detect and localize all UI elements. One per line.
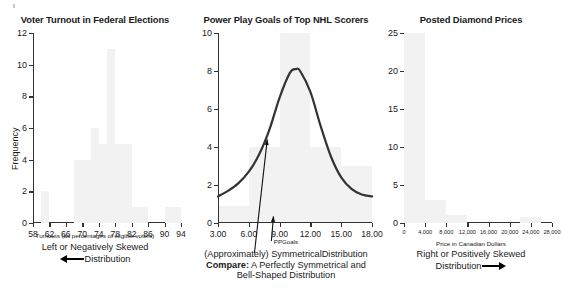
histogram-bar: [91, 128, 99, 223]
x-axis-tick-label: 20,000: [501, 229, 518, 235]
y-axis-tick-label: 20: [388, 66, 398, 76]
histogram-bar: [446, 215, 467, 223]
y-axis-tick: [400, 147, 404, 148]
x-axis-tick: [310, 223, 311, 227]
x-axis-tick: [218, 223, 219, 227]
caption-distribution-row: Distribution: [380, 261, 562, 271]
x-axis-tick: [552, 223, 553, 227]
y-axis-tick-label: 15: [388, 104, 398, 114]
x-axis-tick: [404, 223, 405, 227]
x-axis-tick: [467, 223, 468, 227]
x-axis-tick: [66, 223, 67, 227]
x-axis-tick-label: 12,000: [459, 229, 476, 235]
y-axis-tick: [214, 185, 218, 186]
x-axis-tick: [132, 223, 133, 227]
y-axis-tick-label: 0: [207, 218, 212, 228]
y-axis-tick: [400, 109, 404, 110]
figure-sheet: Voter Turnout in Federal Elections Frequ…: [0, 0, 562, 293]
x-axis-tick: [115, 223, 116, 227]
x-axis-tick: [165, 223, 166, 227]
y-axis-tick-label: 4: [22, 155, 27, 165]
y-axis-tick-label: 0: [22, 218, 27, 228]
x-axis-tick: [531, 223, 532, 227]
left-arrow-icon: [60, 255, 84, 264]
y-axis-tick-label: 25: [388, 28, 398, 38]
x-axis-tick: [49, 223, 50, 227]
x-axis-tick-label: 8,000: [439, 229, 453, 235]
y-axis-tick-label: 12: [17, 28, 27, 38]
right-arrow-icon: [482, 262, 506, 271]
histogram-bar: [74, 160, 82, 223]
y-axis-title-frequency: Frequency: [10, 127, 20, 170]
chart-panel-power-play-goals: Power Play Goals of Top NHL Scorers 0246…: [188, 0, 384, 293]
plot-area-voter-turnout: 024681012 58626670747882869094: [33, 33, 181, 223]
histogram-bar: [107, 49, 115, 223]
x-axis-tick: [280, 223, 281, 227]
x-axis-tick-label: 28,000: [543, 229, 560, 235]
histogram-bar: [99, 144, 107, 223]
chart-panel-diamond-prices: Posted Diamond Prices 0510152025 04,0008…: [380, 0, 562, 293]
y-axis-tick-label: 10: [388, 142, 398, 152]
histogram-bar: [404, 33, 425, 223]
x-axis-title-turnouts: Turnouts (as percentages of eligible vot…: [0, 232, 190, 239]
caption-distribution-label: Distribution: [85, 254, 131, 264]
y-axis-tick-label: 4: [207, 142, 212, 152]
y-axis-tick: [214, 71, 218, 72]
y-axis-tick: [400, 33, 404, 34]
caption-symmetrical: (Approximately) SymmetricalDistribution: [188, 249, 384, 260]
plot-area-diamond-prices: 0510152025 04,0008,00012,00016,00020,000…: [404, 33, 552, 223]
y-axis-line: [33, 33, 34, 223]
page-title-power-play-goals: Power Play Goals of Top NHL Scorers: [188, 14, 384, 25]
chart-panel-voter-turnout: Voter Turnout in Federal Elections Frequ…: [0, 0, 190, 293]
y-axis-tick: [29, 191, 33, 192]
histogram-bar: [165, 207, 181, 223]
x-axis-tick: [341, 223, 342, 227]
y-axis-tick-label: 10: [17, 60, 27, 70]
x-axis-tick: [249, 223, 250, 227]
x-axis-tick: [181, 223, 182, 227]
y-axis-tick-label: 0: [393, 218, 398, 228]
x-axis-tick: [33, 223, 34, 227]
y-axis-tick: [29, 128, 33, 129]
histogram-bar: [123, 144, 131, 223]
y-axis-tick: [214, 33, 218, 34]
y-axis-tick-label: 2: [207, 180, 212, 190]
page-title-voter-turnout: Voter Turnout in Federal Elections: [0, 14, 190, 25]
x-axis-tick: [148, 223, 149, 227]
y-axis-tick-label: 6: [22, 123, 27, 133]
x-axis-tick: [99, 223, 100, 227]
histogram-bar: [82, 160, 90, 223]
x-axis-title-ppgoals: PPGoals: [188, 238, 384, 245]
y-axis-tick: [29, 33, 33, 34]
page-title-diamond-prices: Posted Diamond Prices: [380, 14, 562, 25]
y-axis-tick-label: 2: [22, 186, 27, 196]
x-axis-tick: [510, 223, 511, 227]
caption-compare-label: Compare:: [206, 260, 249, 270]
y-axis-tick: [29, 96, 33, 97]
y-axis-tick: [214, 147, 218, 148]
y-axis-tick-label: 8: [22, 91, 27, 101]
x-axis-tick: [425, 223, 426, 227]
histogram-bar: [41, 191, 49, 223]
y-axis-tick: [400, 185, 404, 186]
x-axis-tick-label: 0: [402, 229, 405, 235]
x-axis-tick-label: 4,000: [418, 229, 432, 235]
y-axis-tick: [400, 71, 404, 72]
y-axis-tick: [214, 109, 218, 110]
histogram-bar: [425, 200, 446, 223]
x-axis-tick: [446, 223, 447, 227]
y-axis-tick-label: 8: [207, 66, 212, 76]
y-axis-tick-label: 10: [202, 28, 212, 38]
y-axis-tick: [29, 65, 33, 66]
histogram-bar: [132, 207, 148, 223]
x-axis-tick: [372, 223, 373, 227]
caption-distribution-row: Distribution: [0, 254, 190, 264]
caption-distribution-label: Distribution: [436, 261, 482, 271]
caption-compare-text: A Perfectly Symmetrical and: [249, 260, 366, 270]
caption-bell-shaped: Bell-Shaped Distribution: [188, 270, 384, 281]
x-axis-tick-label: 16,000: [480, 229, 497, 235]
x-axis-tick-label: 24,000: [522, 229, 539, 235]
x-axis-tick: [489, 223, 490, 227]
x-axis-tick: [82, 223, 83, 227]
histogram-bar: [115, 144, 123, 223]
